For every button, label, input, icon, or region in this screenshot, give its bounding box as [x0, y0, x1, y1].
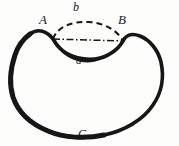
label-curve-c: C [78, 128, 86, 140]
diagram-svg [0, 0, 179, 146]
arc-a-lower [53, 39, 123, 59]
label-arc-b: b [73, 1, 79, 13]
vertex-b-node [121, 39, 124, 42]
label-arc-a: a [76, 55, 82, 66]
vertex-a-node [51, 37, 54, 40]
chord-ab [53, 39, 123, 41]
outer-curve-c-thick-left [11, 34, 104, 137]
label-vertex-b: B [118, 13, 126, 26]
figure-canvas: A B b a C [0, 0, 179, 146]
label-vertex-a: A [39, 13, 47, 26]
arc-b-upper [53, 22, 123, 41]
